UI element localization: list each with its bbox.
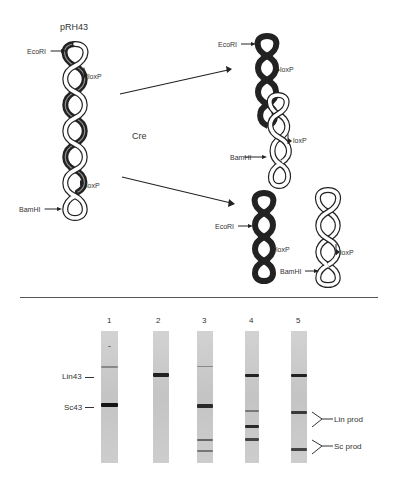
product-brackets bbox=[0, 0, 393, 479]
lin-prod-label: Lin prod bbox=[334, 415, 363, 424]
sc-prod-label: Sc prod bbox=[334, 442, 362, 451]
